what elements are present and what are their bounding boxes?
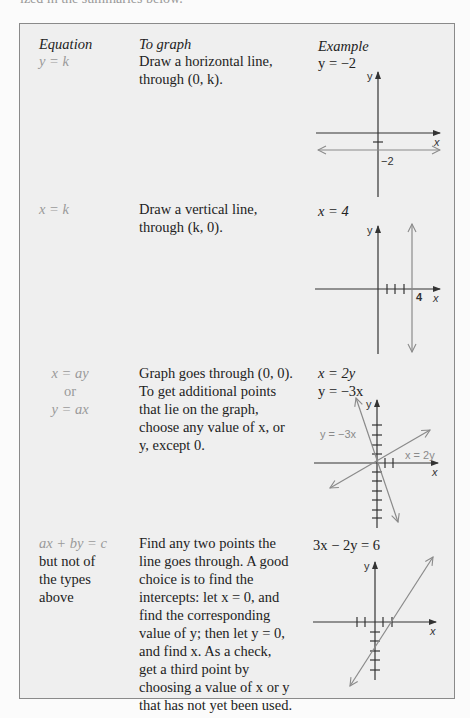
graph-general-line: y x — [313, 557, 436, 686]
example-graphs: y x −2 y x 4 — [0, 0, 470, 718]
y-axis-label: y — [366, 398, 372, 410]
graph-vertical-line: y x 4 — [315, 224, 440, 354]
x-axis-label: x — [429, 625, 436, 637]
x-axis-label: x — [431, 466, 438, 478]
graph-horizontal-line: y x −2 — [316, 70, 440, 197]
line-label: 4 — [416, 291, 423, 303]
y-axis-label: y — [367, 70, 373, 82]
line-label-y-neg3x: y = −3x — [320, 428, 357, 440]
line-label-x-2y: x = 2y — [405, 449, 435, 461]
y-axis-label: y — [367, 224, 373, 236]
line-label: −2 — [381, 155, 394, 167]
graph-through-origin: y x y = −3x x = 2y — [314, 398, 438, 528]
x-axis-label: x — [432, 292, 439, 304]
x-axis-label: x — [433, 136, 440, 148]
y-axis-label: y — [364, 560, 370, 572]
